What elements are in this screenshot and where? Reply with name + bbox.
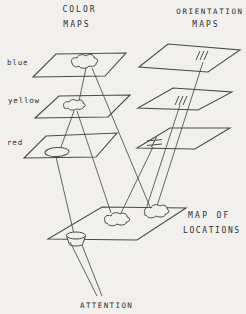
red-map-plane [24, 133, 117, 158]
orientation-map-plane-3 [137, 128, 230, 149]
orientation-maps-title-line2: MAPS [192, 20, 219, 29]
yellow-map-blob [63, 100, 85, 110]
orientation-map-plane-2 [138, 88, 232, 110]
link-yellow-to-red-blob [61, 111, 74, 147]
blue-map-blob [71, 55, 97, 69]
feature-integration-diagram: COLOR MAPS ORIENTATION MAPS blue yellow … [0, 0, 246, 314]
orientation-stroke [147, 144, 162, 146]
attention-label: ATTENTION [80, 301, 133, 310]
orientation-marks-1 [196, 51, 208, 60]
color-maps-title-line1: COLOR [62, 5, 96, 14]
location-blob-right [144, 205, 168, 218]
attended-cup-rim [67, 232, 86, 239]
orientation-marks-2 [175, 96, 187, 105]
feature-to-location-links [56, 62, 203, 232]
red-map-blob [45, 147, 69, 157]
orientation-maps-title-line1: ORIENTATION [176, 7, 243, 16]
link-orientation1-to-right-location [157, 62, 203, 206]
location-blob-middle [104, 213, 129, 226]
orientation-stroke [204, 51, 208, 60]
attended-location-blob [67, 232, 86, 246]
attention-cone-line-left [70, 242, 97, 296]
orientation-map-plane-1 [139, 44, 240, 72]
orientation-stroke [175, 96, 179, 105]
orientation-stroke [183, 96, 187, 105]
link-blue-to-right-location [92, 68, 150, 207]
yellow-map-label: yellow [8, 96, 40, 105]
orientation-stroke [196, 51, 200, 60]
link-yellow-to-middle-location [77, 111, 111, 213]
orientation-marks-3 [147, 137, 162, 147]
color-maps-title-line2: MAPS [63, 20, 90, 29]
blue-map-label: blue [7, 58, 28, 67]
link-red-to-attended-location [56, 157, 74, 232]
location-map-title-line2: LOCATIONS [183, 226, 241, 235]
location-map-title-line1: MAP OF [188, 211, 231, 220]
attention-cone [70, 242, 102, 296]
link-orientation2-to-right-location [146, 105, 180, 209]
attention-cone-line-right [82, 245, 102, 296]
orientation-stroke [200, 51, 204, 60]
red-map-label: red [7, 138, 23, 147]
scanned-figure-page: COLOR MAPS ORIENTATION MAPS blue yellow … [0, 0, 246, 314]
orientation-stroke [179, 96, 183, 105]
